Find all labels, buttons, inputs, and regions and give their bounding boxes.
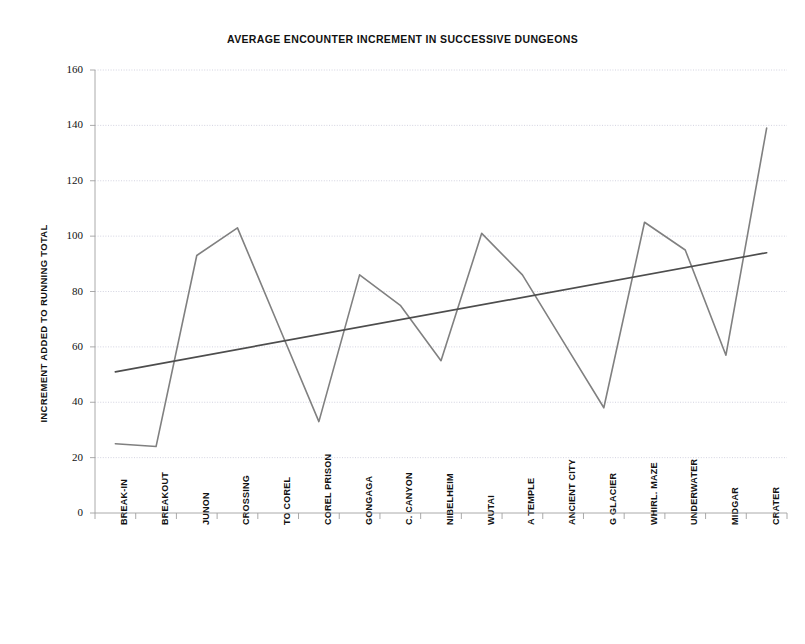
y-axis-ticks: [90, 70, 95, 513]
chart-container: AVERAGE ENCOUNTER INCREMENT IN SUCCESSIV…: [0, 0, 805, 644]
plot-area: [0, 0, 805, 644]
data-series-line: [115, 128, 766, 446]
x-axis-ticks: [95, 513, 787, 519]
gridlines: [95, 70, 787, 458]
trend-line: [115, 253, 766, 372]
